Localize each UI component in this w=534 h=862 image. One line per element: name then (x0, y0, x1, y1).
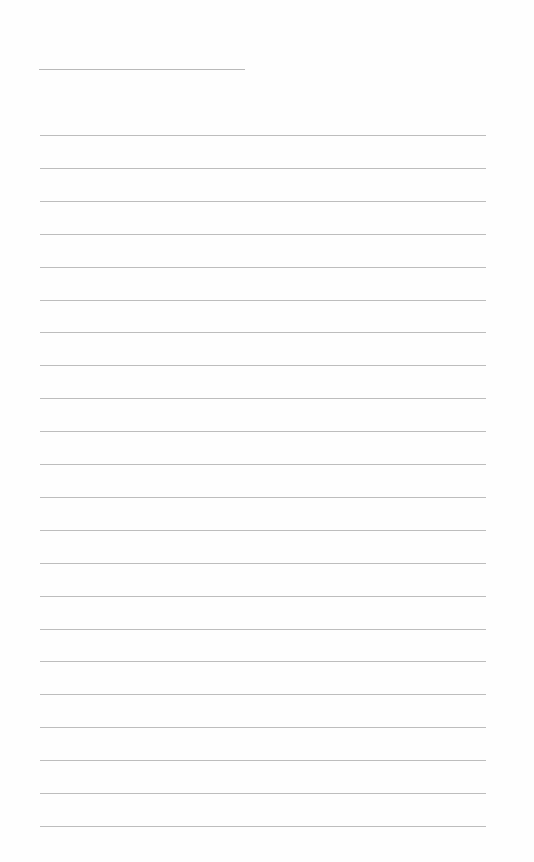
header-blank-line (39, 69, 245, 70)
writing-line (40, 398, 486, 399)
writing-line (40, 300, 486, 301)
writing-line (40, 793, 486, 794)
writing-line (40, 497, 486, 498)
writing-line (40, 563, 486, 564)
writing-line (40, 431, 486, 432)
writing-line (40, 694, 486, 695)
writing-line (40, 530, 486, 531)
writing-line (40, 661, 486, 662)
writing-line (40, 332, 486, 333)
writing-line (40, 365, 486, 366)
writing-line (40, 727, 486, 728)
writing-line (40, 760, 486, 761)
writing-line (40, 826, 486, 827)
writing-line (40, 596, 486, 597)
writing-line (40, 201, 486, 202)
writing-line (40, 168, 486, 169)
writing-line (40, 135, 486, 136)
writing-line (40, 629, 486, 630)
writing-line (40, 267, 486, 268)
lined-page (0, 0, 534, 862)
writing-line (40, 464, 486, 465)
writing-line (40, 234, 486, 235)
